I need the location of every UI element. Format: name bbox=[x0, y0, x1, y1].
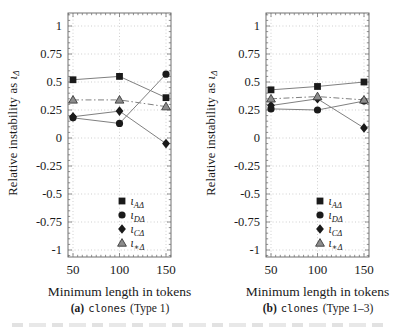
cropped-caption-fragment bbox=[12, 323, 384, 327]
legend-label-triangle: ι∗Δ bbox=[329, 237, 343, 252]
legend-label-subscript: ∗Δ bbox=[134, 242, 145, 252]
marker-triangle bbox=[115, 96, 124, 104]
legend-label-circle: ιDΔ bbox=[131, 209, 145, 224]
y-axis-label-subscript: Δ bbox=[11, 70, 21, 75]
legend-label-circle: ιDΔ bbox=[329, 209, 343, 224]
x-tick-label: 100 bbox=[308, 262, 328, 277]
panel-b-chart: 10.750.50.250-0.25-0.5-0.75-150100150Min… bbox=[198, 0, 396, 300]
caption-a-code: clones bbox=[88, 302, 126, 314]
y-tick-label: 0 bbox=[56, 131, 62, 145]
caption-b-index: (b) bbox=[263, 302, 277, 314]
x-tick-label: 150 bbox=[354, 262, 374, 277]
legend-label-subscript: DΔ bbox=[133, 214, 145, 224]
x-tick-label: 50 bbox=[265, 262, 278, 277]
x-tick-label: 50 bbox=[67, 262, 80, 277]
y-tick-label: -1 bbox=[52, 243, 62, 257]
legend-label-square: ιAΔ bbox=[329, 195, 342, 210]
panel-a: 10.750.50.250-0.25-0.5-0.75-150100150Min… bbox=[0, 0, 198, 329]
legend-label-subscript: AΔ bbox=[133, 200, 144, 210]
legend-marker-diamond bbox=[118, 224, 126, 234]
legend-label-square: ιAΔ bbox=[131, 195, 144, 210]
marker-square bbox=[361, 79, 368, 86]
marker-square bbox=[268, 86, 275, 93]
figure: 10.750.50.250-0.25-0.5-0.75-150100150Min… bbox=[0, 0, 396, 329]
y-tick-label: 0 bbox=[254, 131, 260, 145]
legend-label-subscript: DΔ bbox=[331, 214, 343, 224]
legend-label-subscript: CΔ bbox=[134, 228, 145, 238]
y-axis-label-subscript: Δ bbox=[209, 70, 219, 75]
y-tick-label: 0.75 bbox=[238, 47, 260, 61]
legend-marker-circle bbox=[316, 211, 323, 218]
caption-a-suffix: (Type 1) bbox=[130, 302, 169, 314]
legend-marker-circle bbox=[118, 211, 125, 218]
y-tick-label: -0.75 bbox=[234, 215, 260, 229]
y-tick-label: 0.5 bbox=[46, 75, 62, 89]
caption-a: (a)clones(Type 1) bbox=[30, 302, 210, 314]
marker-square bbox=[70, 76, 77, 83]
panel-a-chart: 10.750.50.250-0.25-0.5-0.75-150100150Min… bbox=[0, 0, 198, 300]
x-axis-title: Minimum length in tokens bbox=[246, 284, 390, 299]
y-tick-label: -0.75 bbox=[36, 215, 62, 229]
legend-label-subscript: AΔ bbox=[331, 200, 342, 210]
caption-b-suffix: (Type 1–3) bbox=[323, 302, 374, 314]
y-tick-label: 0.5 bbox=[244, 75, 260, 89]
legend-label-diamond: ιCΔ bbox=[131, 223, 145, 238]
y-tick-label: 0.75 bbox=[40, 47, 62, 61]
marker-square bbox=[163, 94, 170, 101]
marker-triangle bbox=[313, 92, 322, 100]
y-tick-label: -0.25 bbox=[36, 159, 62, 173]
marker-circle bbox=[162, 71, 169, 78]
x-tick-label: 150 bbox=[156, 262, 176, 277]
y-tick-label: -1 bbox=[250, 243, 260, 257]
legend-marker-diamond bbox=[316, 224, 324, 234]
legend-label-diamond: ιCΔ bbox=[329, 223, 343, 238]
y-tick-label: -0.5 bbox=[42, 187, 62, 201]
marker-triangle bbox=[69, 96, 78, 104]
legend-marker-triangle bbox=[118, 239, 127, 247]
caption-b-code: clones bbox=[281, 302, 319, 314]
y-tick-label: 0.25 bbox=[40, 103, 62, 117]
y-axis-label-b: Relative instability as ιΔ bbox=[204, 70, 219, 195]
legend-label-triangle: ι∗Δ bbox=[131, 237, 145, 252]
legend-label-subscript: ∗Δ bbox=[332, 242, 343, 252]
legend-label-subscript: CΔ bbox=[332, 228, 343, 238]
marker-circle bbox=[116, 120, 123, 127]
marker-diamond bbox=[116, 106, 124, 116]
y-axis-label-text: Relative instability as bbox=[204, 79, 218, 195]
panel-b: 10.750.50.250-0.25-0.5-0.75-150100150Min… bbox=[198, 0, 396, 329]
marker-square bbox=[116, 73, 123, 80]
marker-circle bbox=[314, 106, 321, 113]
caption-b: (b)clones(Type 1–3) bbox=[228, 302, 396, 314]
x-tick-label: 100 bbox=[110, 262, 130, 277]
y-tick-label: 0.25 bbox=[238, 103, 260, 117]
y-axis-label-text: Relative instability as bbox=[6, 79, 20, 195]
x-axis-title: Minimum length in tokens bbox=[48, 284, 192, 299]
marker-diamond bbox=[360, 123, 368, 133]
y-tick-label: 1 bbox=[56, 19, 62, 33]
marker-square bbox=[314, 83, 321, 90]
legend-marker-square bbox=[119, 198, 126, 205]
marker-diamond bbox=[162, 139, 170, 149]
y-tick-label: -0.5 bbox=[240, 187, 260, 201]
y-axis-label-symbol: ι bbox=[204, 76, 218, 80]
legend-marker-square bbox=[317, 198, 324, 205]
y-axis-label-a: Relative instability as ιΔ bbox=[6, 70, 21, 195]
legend-marker-triangle bbox=[316, 239, 325, 247]
caption-a-index: (a) bbox=[71, 302, 84, 314]
y-tick-label: -0.25 bbox=[234, 159, 260, 173]
y-axis-label-symbol: ι bbox=[6, 76, 20, 80]
y-tick-label: 1 bbox=[254, 19, 260, 33]
